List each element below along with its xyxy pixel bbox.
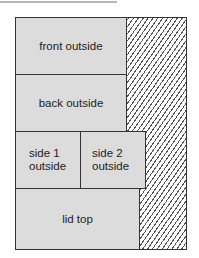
panel-label: back outside	[39, 97, 104, 110]
panel-label: front outside	[39, 40, 102, 53]
panel-label-line2: outside	[92, 160, 129, 173]
panel-lid-top: lid top	[15, 188, 140, 250]
panel-side-1-outside: side 1 outside	[15, 131, 81, 189]
panel-label-line1: side 1	[29, 147, 60, 160]
panel-label-line1: side 2	[92, 147, 123, 160]
panel-side-2-outside: side 2 outside	[80, 131, 146, 189]
top-rule	[0, 1, 117, 3]
panel-label-line2: outside	[29, 160, 66, 173]
panel-back-outside: back outside	[15, 74, 127, 132]
panel-front-outside: front outside	[15, 17, 127, 75]
panel-label: lid top	[62, 213, 93, 226]
